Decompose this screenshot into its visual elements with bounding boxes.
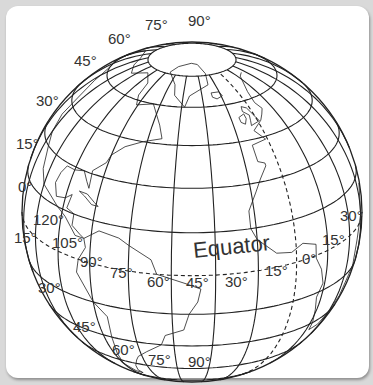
- degree-label: 0°: [18, 178, 32, 195]
- degree-label: 75°: [110, 264, 133, 281]
- degree-label: 90°: [80, 253, 103, 270]
- degree-label: 75°: [145, 16, 168, 33]
- degree-label: 15°: [14, 229, 37, 246]
- degree-label: 15°: [265, 262, 288, 279]
- globe-diagram: 75°90°60°45°30°15°0°15°30°45°60°75°90°12…: [0, 0, 373, 385]
- degree-label: 60°: [108, 30, 131, 47]
- degree-label: 30°: [36, 92, 59, 109]
- degree-label: 30°: [225, 273, 248, 290]
- degree-label: 45°: [73, 318, 96, 335]
- degree-label: 30°: [340, 207, 363, 224]
- degree-label: 45°: [186, 274, 209, 291]
- degree-label: 75°: [148, 351, 171, 368]
- equator-label: Equator: [192, 230, 271, 263]
- degree-label: 0°: [302, 250, 316, 267]
- degree-label: 45°: [74, 52, 97, 69]
- degree-label: 105°: [52, 234, 83, 251]
- degree-label: 15°: [322, 231, 345, 248]
- degree-label: 90°: [188, 353, 211, 370]
- degree-label: 90°: [188, 12, 211, 29]
- degree-label: 30°: [38, 279, 61, 296]
- degree-label: 120°: [33, 211, 64, 228]
- degree-label: 60°: [112, 341, 135, 358]
- degree-label: 60°: [147, 273, 170, 290]
- degree-label: 15°: [16, 135, 39, 152]
